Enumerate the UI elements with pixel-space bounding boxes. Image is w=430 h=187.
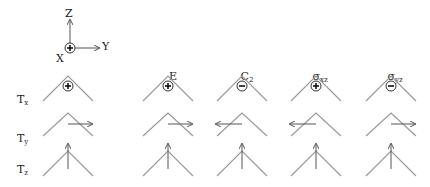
- row-tx-molecules: [43, 76, 416, 101]
- symmetry-diagram: [0, 0, 430, 187]
- coordinate-axes: [65, 20, 99, 53]
- row-tz-arrows: [68, 144, 391, 169]
- row-tx-signs: [63, 81, 396, 91]
- row-tz-molecules: [43, 151, 416, 176]
